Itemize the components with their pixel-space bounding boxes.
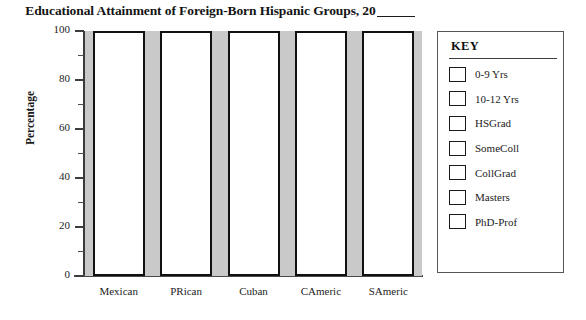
legend-title: KEY — [451, 39, 479, 54]
y-tick-major — [75, 79, 84, 81]
legend-swatch-icon — [449, 165, 466, 180]
y-tick-label: 80 — [30, 72, 70, 84]
legend-swatch-icon — [449, 91, 466, 106]
legend-item: HSGrad — [449, 111, 561, 136]
y-tick-minor — [78, 251, 84, 253]
y-tick-label: 40 — [30, 170, 70, 182]
legend-items: 0-9 Yrs10-12 YrsHSGradSomeCollCollGradMa… — [449, 62, 561, 234]
legend-title-underline — [449, 58, 557, 59]
legend-item: Masters — [449, 185, 561, 210]
y-tick-major — [75, 177, 84, 179]
legend-item-label: SomeColl — [475, 142, 519, 154]
legend-item-label: CollGrad — [475, 167, 516, 179]
bar-prican — [160, 31, 212, 276]
legend-item: 10-12 Yrs — [449, 87, 561, 112]
bar-cameric — [295, 31, 347, 276]
title-fill-in-blank — [377, 16, 415, 17]
y-tick-label: 0 — [30, 268, 70, 280]
y-tick-minor — [78, 202, 84, 204]
y-tick-label: 100 — [30, 23, 70, 35]
y-tick-minor — [78, 153, 84, 155]
x-tick-label-sameric: SAmeric — [348, 285, 428, 297]
bar-sameric — [362, 31, 414, 276]
y-tick-major — [75, 226, 84, 228]
legend-item: PhD-Prof — [449, 210, 561, 235]
y-tick-minor — [78, 104, 84, 106]
legend-item-label: PhD-Prof — [475, 216, 517, 228]
legend-item-label: HSGrad — [475, 117, 511, 129]
chart-title-text: Educational Attainment of Foreign-Born H… — [25, 3, 375, 18]
y-tick-minor — [78, 55, 84, 57]
legend-item: SomeColl — [449, 136, 561, 161]
y-tick-major — [75, 128, 84, 130]
plot-area — [85, 31, 422, 276]
page-title: Educational Attainment of Foreign-Born H… — [0, 3, 440, 19]
bar-cuban — [228, 31, 280, 276]
legend-swatch-icon — [449, 67, 466, 82]
legend-swatch-icon — [449, 116, 466, 131]
legend-swatch-icon — [449, 141, 466, 156]
y-tick-major — [75, 30, 84, 32]
legend-swatch-icon — [449, 214, 466, 229]
legend-item: CollGrad — [449, 160, 561, 185]
y-tick-label: 20 — [30, 219, 70, 231]
bar-mexican — [93, 31, 145, 276]
legend: KEY 0-9 Yrs10-12 YrsHSGradSomeCollCollGr… — [437, 31, 564, 273]
y-tick-label: 60 — [30, 121, 70, 133]
legend-swatch-icon — [449, 190, 466, 205]
legend-item: 0-9 Yrs — [449, 62, 561, 87]
legend-item-label: 0-9 Yrs — [475, 68, 508, 80]
legend-item-label: Masters — [475, 191, 510, 203]
legend-item-label: 10-12 Yrs — [475, 93, 519, 105]
y-tick-major — [75, 275, 84, 277]
